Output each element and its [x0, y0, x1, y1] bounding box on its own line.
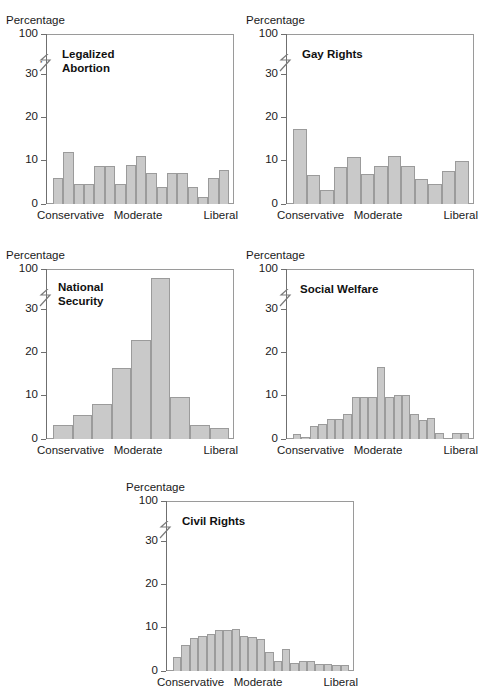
bar	[188, 187, 198, 204]
bar	[190, 638, 198, 671]
y-tick-label-10: 10	[246, 388, 278, 400]
bar	[92, 404, 112, 439]
x-category-liberal: Liberal	[434, 209, 478, 221]
y-tick-label-30: 30	[246, 67, 278, 79]
x-category-liberal: Liberal	[194, 209, 238, 221]
x-category-conservative: Conservative	[277, 209, 344, 221]
bar	[368, 397, 376, 440]
y-tick-label-20: 20	[6, 110, 38, 122]
y-tick-100	[41, 269, 46, 270]
y-tick-label-0: 0	[6, 197, 38, 209]
bar	[435, 433, 443, 439]
y-tick-30	[41, 74, 46, 75]
bar	[274, 661, 282, 671]
bar	[410, 414, 418, 439]
bar	[248, 637, 256, 671]
bar-series	[53, 34, 229, 204]
y-tick-30	[281, 74, 286, 75]
y-tick-0	[161, 671, 166, 672]
bar	[207, 634, 215, 671]
bar	[146, 173, 156, 204]
y-axis-label: Percentage	[126, 481, 185, 493]
bar	[63, 152, 73, 204]
bar	[105, 166, 115, 204]
bar	[73, 415, 93, 439]
bar	[131, 340, 151, 439]
bar	[374, 166, 388, 204]
bar	[232, 629, 240, 671]
axis-break-icon	[278, 54, 294, 76]
y-tick-30	[41, 309, 46, 310]
bar	[402, 395, 410, 439]
y-axis-label: Percentage	[6, 14, 65, 26]
bar	[53, 178, 63, 204]
y-tick-label-0: 0	[246, 432, 278, 444]
bar	[318, 424, 326, 439]
bar	[293, 129, 307, 204]
panel-social-welfare: Percentage Social Welfare 100 30 20 10 0…	[246, 249, 478, 459]
bar	[170, 397, 190, 440]
bar	[361, 174, 375, 204]
bar	[341, 665, 349, 671]
x-category-conservative: Conservative	[37, 444, 104, 456]
x-category-moderate: Moderate	[228, 676, 288, 688]
bar	[115, 184, 125, 204]
bar	[320, 190, 334, 204]
y-tick-20	[281, 117, 286, 118]
bar	[315, 664, 323, 671]
bar	[415, 179, 429, 204]
bar	[112, 368, 132, 439]
y-tick-label-20: 20	[6, 345, 38, 357]
y-tick-0	[41, 439, 46, 440]
bar	[151, 278, 171, 439]
y-tick-10	[281, 395, 286, 396]
axis-break-icon	[158, 521, 174, 543]
bar	[190, 425, 210, 439]
y-tick-label-100: 100	[6, 262, 38, 274]
y-tick-20	[161, 584, 166, 585]
bar-series	[293, 34, 469, 204]
bar	[210, 428, 230, 439]
bar	[299, 661, 307, 671]
bar	[327, 419, 335, 439]
bar	[223, 630, 231, 671]
panel-civil-rights: Percentage Civil Rights 100 30 20 10 0 C…	[126, 481, 358, 691]
y-tick-label-30: 30	[6, 67, 38, 79]
bar	[401, 166, 415, 204]
y-tick-30	[161, 541, 166, 542]
bar	[347, 157, 361, 204]
y-tick-100	[281, 34, 286, 35]
bar	[428, 184, 442, 204]
bar	[265, 652, 273, 671]
bar	[215, 630, 223, 671]
bar	[332, 665, 340, 671]
x-category-moderate: Moderate	[108, 444, 168, 456]
bar-series	[293, 269, 469, 439]
x-category-conservative: Conservative	[277, 444, 344, 456]
bar	[442, 171, 456, 204]
y-axis-label: Percentage	[246, 14, 305, 26]
bar-series	[173, 501, 349, 671]
axis-break-icon	[278, 289, 294, 311]
y-tick-label-0: 0	[126, 664, 158, 676]
y-tick-10	[161, 627, 166, 628]
x-category-moderate: Moderate	[348, 209, 408, 221]
bar	[74, 184, 84, 204]
bar	[198, 197, 208, 204]
bar	[177, 173, 187, 204]
y-tick-100	[161, 501, 166, 502]
axis-break-icon	[38, 289, 54, 311]
y-axis-label: Percentage	[6, 249, 65, 261]
y-tick-label-20: 20	[246, 110, 278, 122]
bar	[388, 156, 402, 204]
bar	[240, 636, 248, 671]
x-category-liberal: Liberal	[194, 444, 238, 456]
y-tick-100	[41, 34, 46, 35]
y-tick-20	[41, 117, 46, 118]
y-tick-20	[41, 352, 46, 353]
y-tick-label-30: 30	[126, 534, 158, 546]
bar	[452, 433, 460, 439]
bar	[208, 178, 218, 204]
bar	[352, 397, 360, 439]
x-category-conservative: Conservative	[37, 209, 104, 221]
